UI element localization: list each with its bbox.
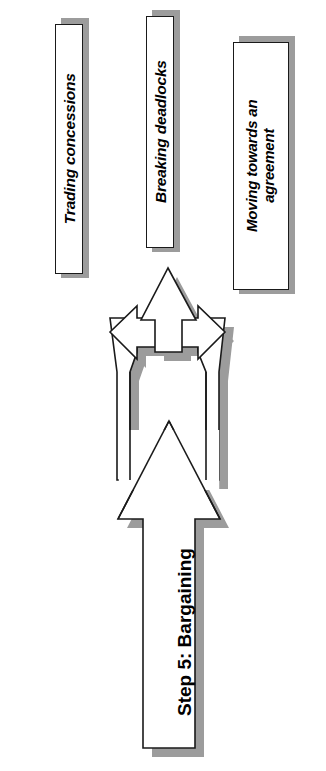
box-trading-concessions[interactable]: Trading concessions	[55, 24, 83, 274]
box-breaking-deadlocks[interactable]: Breaking deadlocks	[146, 16, 174, 248]
arrow-shapes	[110, 268, 225, 748]
box-label-breaking-deadlocks: Breaking deadlocks	[151, 61, 168, 204]
box-label-moving-towards-agreement: Moving towards an agreement	[244, 100, 278, 232]
box-label-trading-concessions: Trading concessions	[60, 74, 77, 225]
box-moving-towards-agreement[interactable]: Moving towards an agreement	[233, 42, 289, 290]
junction-merge	[119, 430, 219, 490]
main-arrow-label: Step 5: Bargaining	[174, 556, 196, 716]
